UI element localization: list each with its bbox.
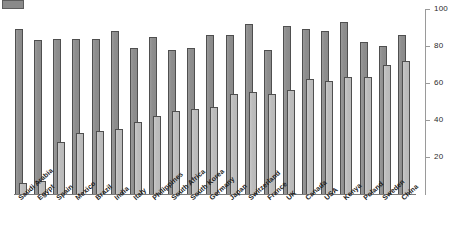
bar-group (359, 9, 378, 194)
bar-group (301, 9, 320, 194)
y-tick (425, 120, 430, 121)
legend-swatch (2, 0, 24, 9)
y-tick-label: 20 (434, 153, 443, 161)
bar-group (148, 9, 167, 194)
y-tick-label: 80 (434, 42, 443, 50)
bar-group (14, 9, 33, 194)
bar-series-light (402, 61, 410, 194)
y-tick (425, 157, 430, 158)
y-tick-label: 60 (434, 79, 443, 87)
x-axis-labels: Saudi ArabiaEgyptSpainMexicoBrazilIndiaI… (0, 196, 466, 248)
bar-series-light (115, 129, 123, 194)
bar-series-light (134, 122, 142, 194)
bar-series-light (325, 81, 333, 194)
bar-series-dark (15, 29, 23, 194)
y-tick-label: 100 (434, 5, 448, 13)
bar-group (282, 9, 301, 194)
bar-series-light (287, 90, 295, 194)
y-axis-line (425, 9, 426, 195)
bar-series-dark (34, 40, 42, 194)
bar-group (339, 9, 358, 194)
bar-group (263, 9, 282, 194)
bar-group (167, 9, 186, 194)
bar-series-light (153, 116, 161, 194)
bar-group (91, 9, 110, 194)
y-tick-label: 40 (434, 116, 443, 124)
bar-series-light (364, 77, 372, 194)
bar-group (110, 9, 129, 194)
bar-group (225, 9, 244, 194)
y-tick (425, 46, 430, 47)
bar-group (397, 9, 416, 194)
bar-group (129, 9, 148, 194)
bar-group (320, 9, 339, 194)
bar-series-light (383, 65, 391, 195)
bar-group (71, 9, 90, 194)
y-tick (425, 9, 430, 10)
bar-series-light (306, 79, 314, 194)
bar-series-light (249, 92, 257, 194)
chart-root: 20406080100 Saudi ArabiaEgyptSpainMexico… (0, 0, 466, 248)
bar-group (186, 9, 205, 194)
y-tick (425, 83, 430, 84)
bar-group (52, 9, 71, 194)
bar-series-light (344, 77, 352, 194)
bar-group (244, 9, 263, 194)
bar-group (378, 9, 397, 194)
bar-series-light (76, 133, 84, 194)
plot-area (14, 9, 416, 194)
bar-group (205, 9, 224, 194)
